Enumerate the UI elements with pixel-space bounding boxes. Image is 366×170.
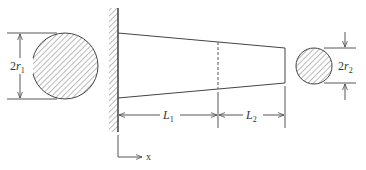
diagram-canvas: 2r1 L1 L2 2r2 xyxy=(0,0,366,170)
length-dimensions: L1 L2 xyxy=(119,86,285,128)
right-diameter-label: 2r2 xyxy=(338,59,353,75)
x-axis: x xyxy=(118,135,151,162)
axis-line xyxy=(118,135,142,157)
tapered-shaft xyxy=(118,33,285,98)
right-cross-section: 2r2 xyxy=(296,32,356,100)
left-cross-section: 2r1 xyxy=(7,33,98,99)
shaft-outline xyxy=(118,33,285,98)
wall-hatching xyxy=(109,8,118,132)
x-axis-label: x xyxy=(146,151,151,162)
right-circle-hatched xyxy=(296,48,332,84)
left-circle-hatched xyxy=(32,33,98,99)
fixed-wall xyxy=(109,8,118,132)
